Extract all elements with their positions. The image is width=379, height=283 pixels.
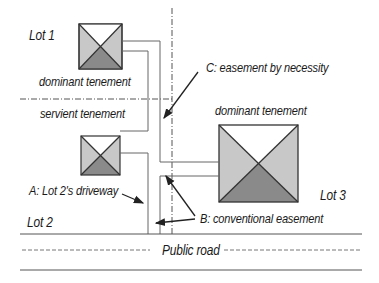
lot1-house-icon (79, 24, 122, 69)
easement-c-path (120, 41, 219, 162)
arrow-a (122, 194, 143, 203)
label-dominant-tenement-lot1: dominant tenement (39, 74, 131, 89)
label-easement-c: C: easement by necessity (206, 60, 328, 75)
arrow-c (164, 72, 198, 118)
driveway-a-path (120, 153, 148, 234)
label-easement-b: B: conventional easement (200, 211, 323, 226)
label-lot3: Lot 3 (320, 187, 346, 203)
arrow-b-upper (166, 176, 195, 216)
label-lot1: Lot 1 (29, 27, 55, 43)
label-public-road: Public road (162, 242, 220, 258)
label-lot2: Lot 2 (27, 214, 53, 230)
lot3-house-icon (219, 125, 298, 202)
label-servient-tenement: servient tenement (40, 106, 125, 121)
easement-diagram (0, 0, 379, 283)
lot2-house-icon (81, 136, 120, 175)
label-driveway-a: A: Lot 2's driveway (29, 183, 118, 198)
label-dominant-tenement-lot3: dominant tenement (215, 103, 307, 118)
arrow-b-lower (156, 219, 195, 223)
